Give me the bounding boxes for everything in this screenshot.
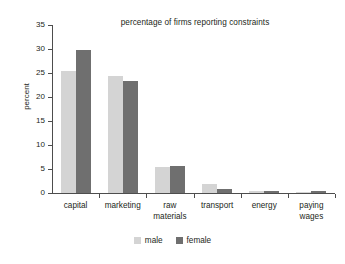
- y-axis-tick: 15: [22, 116, 52, 126]
- chart-legend: malefemale: [0, 236, 345, 245]
- x-axis-tick-mark: [241, 194, 242, 198]
- bar-male-3: [202, 184, 217, 193]
- legend-label: female: [187, 236, 212, 245]
- x-axis-tick-mark: [288, 194, 289, 198]
- y-axis-tick-label: 35: [36, 20, 45, 30]
- y-axis-tick-mark: [48, 73, 52, 74]
- x-axis-tick-mark: [335, 194, 336, 198]
- y-axis-tick-mark: [48, 25, 52, 26]
- bar-male-0: [61, 71, 76, 193]
- plot-area: 05101520253035 capitalmarketingraw mater…: [52, 25, 335, 193]
- bar-male-1: [108, 76, 123, 193]
- y-axis-tick-mark: [48, 49, 52, 50]
- legend-swatch-icon: [134, 237, 141, 244]
- x-axis-category-label: capital: [52, 200, 99, 211]
- y-axis-tick-mark: [48, 97, 52, 98]
- x-axis-category-label: energy: [241, 200, 288, 211]
- x-axis-tick-mark: [194, 194, 195, 198]
- y-axis-tick: 10: [22, 140, 52, 150]
- bar-female-5: [311, 191, 326, 193]
- bar-male-2: [155, 167, 170, 193]
- bar-female-1: [123, 81, 138, 193]
- legend-swatch-icon: [176, 237, 183, 244]
- y-axis-line: [52, 25, 53, 194]
- x-axis-category-label: marketing: [99, 200, 146, 211]
- bar-female-0: [76, 50, 91, 193]
- x-axis-category-label: transport: [194, 200, 241, 211]
- y-axis-tick-label: 5: [41, 164, 45, 174]
- legend-label: male: [145, 236, 163, 245]
- bar-female-2: [170, 166, 185, 193]
- x-axis-tick-mark: [146, 194, 147, 198]
- y-axis-tick-label: 25: [36, 68, 45, 78]
- y-axis-tick: 0: [22, 188, 52, 198]
- y-axis-tick: 25: [22, 68, 52, 78]
- y-axis-tick-mark: [48, 121, 52, 122]
- x-axis-category-label: raw materials: [146, 200, 193, 222]
- y-axis-tick: 5: [22, 164, 52, 174]
- y-axis-tick-label: 20: [36, 92, 45, 102]
- bar-chart: percentage of firms reporting constraint…: [0, 0, 345, 264]
- y-axis-tick-label: 0: [41, 188, 45, 198]
- y-axis-tick: 30: [22, 44, 52, 54]
- y-axis-tick: 20: [22, 92, 52, 102]
- bar-male-5: [296, 192, 311, 193]
- bar-female-4: [264, 191, 279, 193]
- y-axis-tick: 35: [22, 20, 52, 30]
- y-axis-tick-label: 15: [36, 116, 45, 126]
- y-axis-tick-mark: [48, 145, 52, 146]
- legend-item-female[interactable]: female: [176, 236, 212, 245]
- y-axis-tick-mark: [48, 169, 52, 170]
- y-axis-tick-label: 10: [36, 140, 45, 150]
- y-axis-tick-mark: [48, 193, 52, 194]
- x-axis-tick-mark: [99, 194, 100, 198]
- bar-female-3: [217, 189, 232, 193]
- x-axis-category-label: paying wages: [288, 200, 335, 222]
- legend-item-male[interactable]: male: [134, 236, 163, 245]
- y-axis-tick-label: 30: [36, 44, 45, 54]
- bar-male-4: [249, 191, 264, 193]
